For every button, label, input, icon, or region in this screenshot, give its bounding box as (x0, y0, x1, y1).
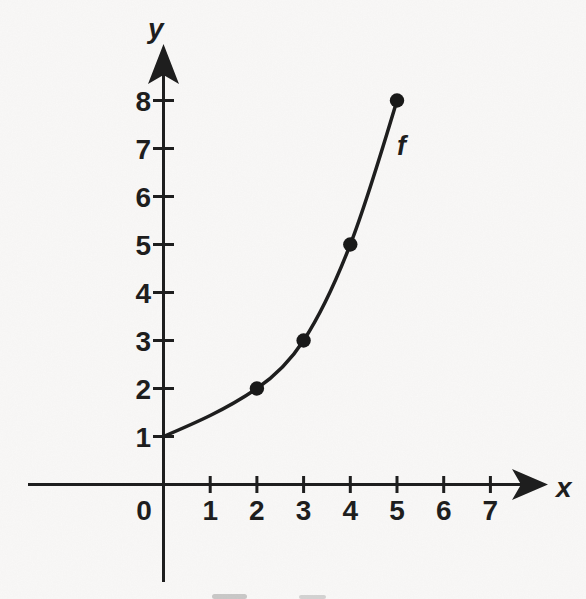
x-tick-label-4: 4 (343, 495, 359, 526)
y-axis-letter: y (148, 15, 164, 43)
data-point-3-3 (296, 333, 310, 347)
x-tick-label-6: 6 (436, 495, 452, 526)
x-tick-label-0: 0 (136, 495, 152, 526)
x-tick-label-2: 2 (249, 495, 265, 526)
y-tick-label-4: 4 (135, 278, 151, 309)
graph-figure: 0123456712345678 y x f (0, 0, 586, 599)
curve-label-f: f (397, 133, 406, 160)
x-tick-label-5: 5 (389, 495, 405, 526)
data-point-5-8 (390, 93, 404, 107)
y-tick-label-1: 1 (135, 422, 151, 453)
function-graph-canvas: 0123456712345678 (0, 0, 586, 599)
x-tick-label-1: 1 (202, 495, 218, 526)
scan-smudge (299, 595, 326, 599)
y-tick-label-2: 2 (135, 374, 151, 405)
x-tick-label-7: 7 (483, 495, 499, 526)
x-tick-label-3: 3 (296, 495, 312, 526)
data-point-2-2 (250, 381, 264, 395)
y-tick-label-3: 3 (135, 326, 151, 357)
y-tick-label-8: 8 (135, 86, 151, 117)
y-tick-label-7: 7 (135, 134, 151, 165)
scan-smudge (212, 594, 247, 599)
y-tick-label-6: 6 (135, 182, 151, 213)
data-point-4-5 (343, 237, 357, 251)
x-axis-letter: x (556, 474, 572, 502)
y-tick-label-5: 5 (135, 230, 151, 261)
